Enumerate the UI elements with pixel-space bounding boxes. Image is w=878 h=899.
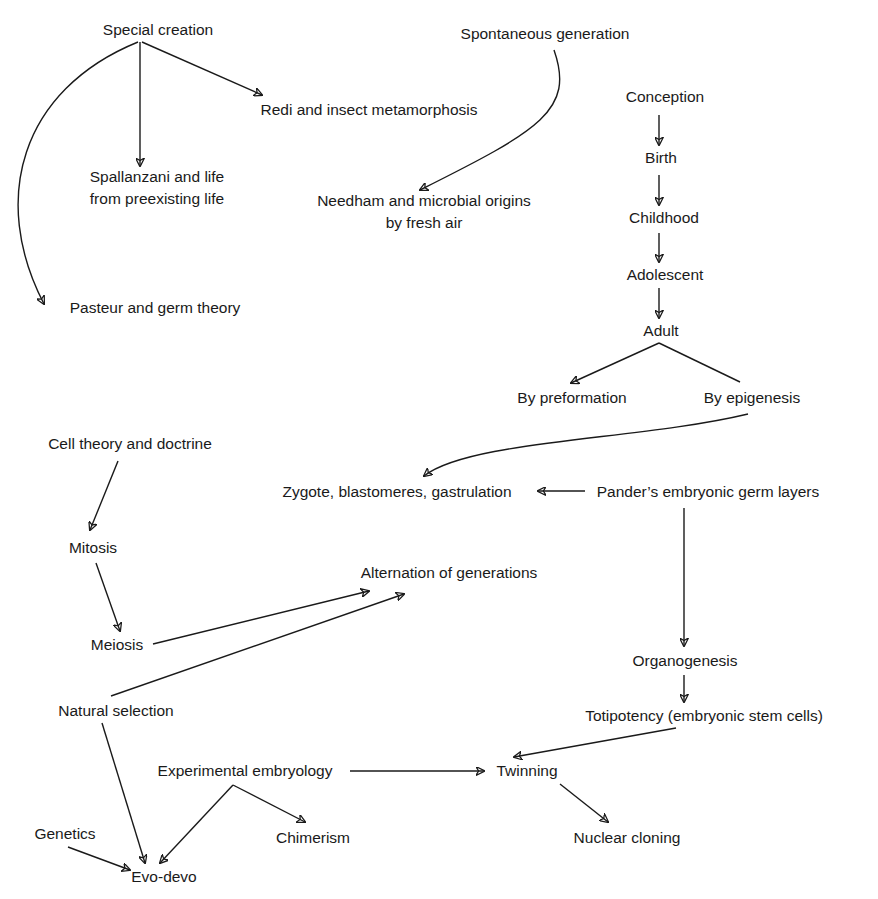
- node-childhood: Childhood: [629, 207, 699, 229]
- node-conception: Conception: [626, 86, 704, 108]
- node-birth: Birth: [645, 147, 677, 169]
- node-nuclear-cloning: Nuclear cloning: [574, 827, 681, 849]
- node-evo-devo: Evo-devo: [131, 866, 196, 888]
- node-spallanzani: Spallanzani and life from preexisting li…: [90, 166, 224, 210]
- node-chimerism: Chimerism: [276, 827, 350, 849]
- edge-twinning-to-nuclear-cloning-arrow-icon: [560, 784, 608, 822]
- node-adolescent: Adolescent: [627, 264, 704, 286]
- edge-genetics-to-evo-devo-arrow-icon: [68, 847, 130, 870]
- node-organogenesis: Organogenesis: [632, 650, 737, 672]
- edge-adult-to-by-epigenesis-line: [659, 343, 740, 382]
- edge-natural-selection-to-evo-devo-arrow-icon: [102, 723, 145, 863]
- node-redi: Redi and insect metamorphosis: [260, 99, 477, 121]
- edge-special-creation-to-redi-arrow-icon: [142, 42, 262, 95]
- node-totipotency: Totipotency (embryonic stem cells): [585, 705, 823, 727]
- diagram-canvas: Special creationSpontaneous generationRe…: [0, 0, 878, 899]
- node-by-preformation: By preformation: [517, 387, 626, 409]
- edge-totipotency-to-twinning-arrow-icon: [514, 728, 676, 757]
- edge-experimental-embryology-to-evo-devo-arrow-icon: [160, 785, 233, 863]
- node-zygote: Zygote, blastomeres, gastrulation: [282, 481, 511, 503]
- edge-natural-selection-to-alternation-arrow-icon: [111, 594, 404, 696]
- node-experimental-embryology: Experimental embryology: [158, 760, 333, 782]
- node-natural-selection: Natural selection: [58, 700, 173, 722]
- node-by-epigenesis: By epigenesis: [704, 387, 801, 409]
- node-genetics: Genetics: [34, 823, 95, 845]
- edge-by-epigenesis-to-zygote-arrow-icon: [424, 414, 748, 476]
- node-spontaneous-generation: Spontaneous generation: [461, 23, 630, 45]
- edge-mitosis-to-meiosis-arrow-icon: [96, 563, 120, 631]
- node-pasteur: Pasteur and germ theory: [70, 297, 241, 319]
- edge-experimental-embryology-to-chimerism-arrow-icon: [233, 785, 305, 822]
- node-twinning: Twinning: [496, 760, 557, 782]
- node-meiosis: Meiosis: [91, 634, 144, 656]
- edge-cell-theory-to-mitosis-arrow-icon: [90, 461, 118, 530]
- node-adult: Adult: [643, 320, 678, 342]
- node-alternation: Alternation of generations: [361, 562, 538, 584]
- node-cell-theory: Cell theory and doctrine: [48, 433, 212, 455]
- node-mitosis: Mitosis: [69, 537, 117, 559]
- edge-adult-to-by-preformation-arrow-icon: [571, 343, 659, 383]
- node-needham: Needham and microbial origins by fresh a…: [317, 190, 531, 234]
- node-special-creation: Special creation: [103, 19, 213, 41]
- node-pander: Pander’s embryonic germ layers: [597, 481, 820, 503]
